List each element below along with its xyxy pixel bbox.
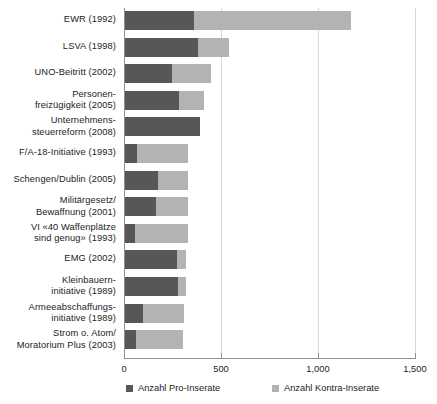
category-label: Militärgesetz/ Bewaffnung (2001) [0,195,116,218]
bar-segment-kontra[interactable] [198,38,229,57]
legend-item-kontra[interactable]: Anzahl Kontra-Inserate [272,383,379,393]
bar-segment-pro[interactable] [125,197,156,216]
category-label: F/A-18-Initiative (1993) [0,147,116,158]
bar-chart: EWR (1992)LSVA (1998)UNO-Beitritt (2002)… [0,0,437,404]
bar-row: Unternehmens- steuerreform (2008) [0,115,437,141]
bar-segment-kontra[interactable] [137,144,188,163]
bar-row: EMG (2002) [0,248,437,274]
plot-area: EWR (1992)LSVA (1998)UNO-Beitritt (2002)… [0,0,437,364]
category-label: Schengen/Dublin (2005) [0,174,116,185]
bar-row: Personen- freizügigkeit (2005) [0,89,437,115]
bar-segment-kontra[interactable] [177,250,186,269]
stacked-bar[interactable] [125,117,200,136]
bar-row: VI «40 Waffenplätze sind genug» (1993) [0,222,437,248]
bar-segment-pro[interactable] [125,304,143,323]
bar-segment-pro[interactable] [125,250,177,269]
legend-item-pro[interactable]: Anzahl Pro-Inserate [126,383,220,393]
stacked-bar[interactable] [125,91,204,110]
bar-segment-kontra[interactable] [178,277,186,296]
bar-segment-kontra[interactable] [156,197,188,216]
bar-segment-kontra[interactable] [135,224,188,243]
stacked-bar[interactable] [125,64,211,83]
bar-row: Kleinbauern- initiative (1989) [0,275,437,301]
bar-row: Strom o. Atom/ Moratorium Plus (2003) [0,328,437,354]
bar-segment-pro[interactable] [125,277,178,296]
category-label: LSVA (1998) [0,41,116,52]
bar-segment-pro[interactable] [125,224,135,243]
category-label: Unternehmens- steuerreform (2008) [0,115,116,138]
bar-segment-pro[interactable] [125,38,198,57]
stacked-bar[interactable] [125,304,184,323]
bar-row: Schengen/Dublin (2005) [0,169,437,195]
bar-segment-kontra[interactable] [158,171,188,190]
stacked-bar[interactable] [125,144,188,163]
category-label: Strom o. Atom/ Moratorium Plus (2003) [0,328,116,351]
legend-label-kontra: Anzahl Kontra-Inserate [284,383,379,393]
stacked-bar[interactable] [125,277,186,296]
bar-segment-pro[interactable] [125,91,179,110]
category-label: Kleinbauern- initiative (1989) [0,275,116,298]
bar-segment-kontra[interactable] [179,91,204,110]
bar-segment-pro[interactable] [125,171,158,190]
category-label: EWR (1992) [0,14,116,25]
bar-segment-kontra[interactable] [136,330,183,349]
category-label: VI «40 Waffenplätze sind genug» (1993) [0,222,116,245]
x-tick-label-1500: 1,500 [403,364,426,374]
stacked-bar[interactable] [125,250,186,269]
category-label: Personen- freizügigkeit (2005) [0,89,116,112]
x-tick-label-0: 0 [121,364,126,374]
stacked-bar[interactable] [125,38,229,57]
bar-segment-kontra[interactable] [194,11,351,30]
bar-row: Armeeabschaffungs- initiative (1989) [0,302,437,328]
bar-segment-pro[interactable] [125,144,137,163]
bar-row: UNO-Beitritt (2002) [0,62,437,88]
stacked-bar[interactable] [125,197,188,216]
kontra-swatch-icon [272,385,279,392]
bar-segment-kontra[interactable] [143,304,184,323]
bar-segment-pro[interactable] [125,64,172,83]
x-axis-line [124,358,416,359]
stacked-bar[interactable] [125,330,183,349]
category-label: UNO-Beitritt (2002) [0,67,116,78]
bar-row: EWR (1992) [0,9,437,35]
bar-row: F/A-18-Initiative (1993) [0,142,437,168]
bar-row: LSVA (1998) [0,36,437,62]
bar-row: Militärgesetz/ Bewaffnung (2001) [0,195,437,221]
stacked-bar[interactable] [125,11,351,30]
x-tick-label-1000: 1,000 [306,364,329,374]
stacked-bar[interactable] [125,224,188,243]
x-tick-label-500: 500 [213,364,229,374]
chart-legend: Anzahl Pro-Inserate Anzahl Kontra-Insera… [0,383,437,399]
stacked-bar[interactable] [125,171,188,190]
bar-segment-pro[interactable] [125,117,200,136]
bar-segment-pro[interactable] [125,11,194,30]
legend-label-pro: Anzahl Pro-Inserate [138,383,220,393]
pro-swatch-icon [126,385,133,392]
bar-segment-kontra[interactable] [172,64,211,83]
category-label: Armeeabschaffungs- initiative (1989) [0,302,116,325]
x-axis-tick-labels: 05001,0001,500 [0,364,437,380]
bar-segment-pro[interactable] [125,330,136,349]
category-label: EMG (2002) [0,253,116,264]
